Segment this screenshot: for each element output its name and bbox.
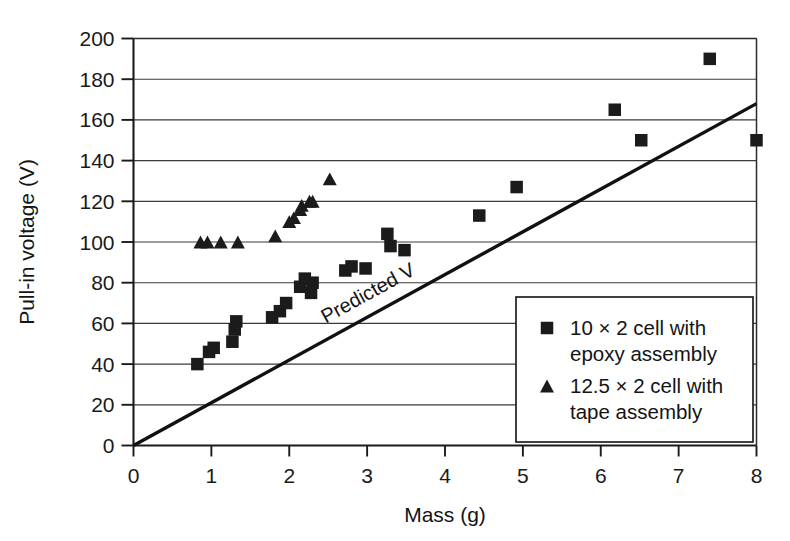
x-tick-label: 5 bbox=[517, 464, 529, 487]
x-tick-label: 4 bbox=[439, 464, 451, 487]
y-tick-label: 60 bbox=[91, 312, 114, 335]
data-point-square bbox=[473, 209, 486, 222]
data-point-square bbox=[609, 103, 622, 116]
y-tick-label: 40 bbox=[91, 353, 114, 376]
y-tick-label: 200 bbox=[79, 27, 114, 50]
data-point-square bbox=[384, 240, 397, 253]
x-axis-title: Mass (g) bbox=[404, 503, 486, 526]
y-tick-label: 20 bbox=[91, 393, 114, 416]
legend-label-line1: 10 × 2 cell with bbox=[570, 316, 706, 339]
data-point-square bbox=[704, 53, 717, 66]
data-point-square bbox=[345, 260, 358, 273]
data-point-square bbox=[635, 134, 648, 147]
x-tick-label: 0 bbox=[128, 464, 140, 487]
x-tick-label: 6 bbox=[595, 464, 607, 487]
legend-marker-square bbox=[541, 322, 554, 335]
data-point-square bbox=[510, 181, 523, 194]
x-tick-label: 3 bbox=[361, 464, 373, 487]
data-point-square bbox=[359, 262, 372, 275]
chart-figure: Predicted V 020406080100120140160180200 … bbox=[0, 0, 790, 541]
scatter-plot: Predicted V 020406080100120140160180200 … bbox=[0, 0, 790, 541]
y-tick-label: 140 bbox=[79, 149, 114, 172]
x-tick-label: 7 bbox=[673, 464, 685, 487]
x-tick-label: 8 bbox=[751, 464, 763, 487]
legend-label-line1: 12.5 × 2 cell with bbox=[570, 374, 723, 397]
y-tick-label: 80 bbox=[91, 271, 114, 294]
data-point-square bbox=[230, 315, 243, 328]
data-point-square bbox=[207, 342, 220, 355]
legend-label-line2: epoxy assembly bbox=[570, 342, 718, 365]
legend-label-line2: tape assembly bbox=[570, 400, 703, 423]
data-point-square bbox=[398, 244, 411, 257]
x-tick-label: 1 bbox=[206, 464, 218, 487]
y-tick-label: 120 bbox=[79, 190, 114, 213]
y-tick-label: 100 bbox=[79, 231, 114, 254]
y-tick-label: 160 bbox=[79, 108, 114, 131]
y-axis-title: Pull-in voltage (V) bbox=[15, 159, 38, 325]
data-point-square bbox=[191, 358, 204, 371]
data-point-square bbox=[280, 297, 293, 310]
data-point-square bbox=[750, 134, 763, 147]
y-tick-label: 0 bbox=[103, 434, 115, 457]
chart-legend: 10 × 2 cell withepoxy assembly12.5 × 2 c… bbox=[516, 297, 753, 442]
data-point-square bbox=[381, 228, 394, 241]
data-point-square bbox=[226, 335, 239, 348]
y-tick-label: 180 bbox=[79, 68, 114, 91]
x-tick-label: 2 bbox=[283, 464, 295, 487]
data-point-square bbox=[306, 276, 319, 289]
